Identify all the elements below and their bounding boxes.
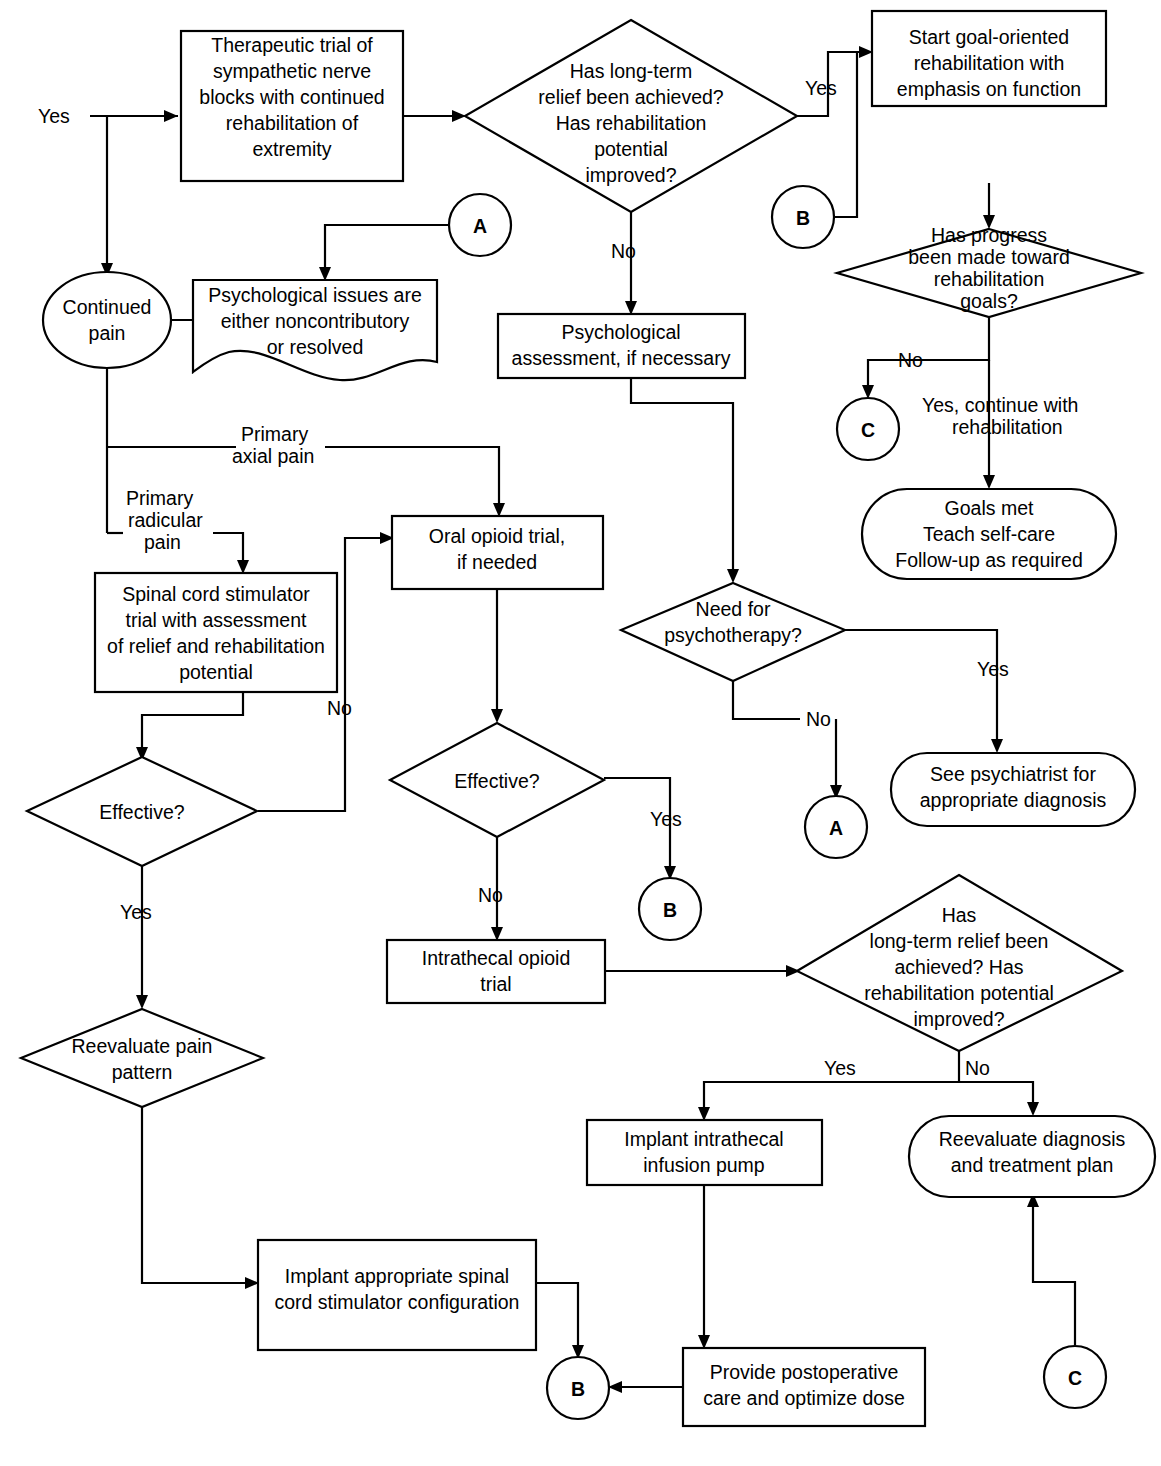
- node-longterm-relief-2[interactable]: Has long-term relief been achieved? Has …: [797, 875, 1122, 1051]
- connector-c2[interactable]: C: [1044, 1346, 1106, 1408]
- node-reevaluate-dx[interactable]: Reevaluate diagnosis and treatment plan: [909, 1116, 1155, 1197]
- connector-b3[interactable]: B: [547, 1357, 609, 1419]
- connector-c2-label: C: [1068, 1367, 1082, 1389]
- reevaluate-dx-line-1: Reevaluate diagnosis: [939, 1128, 1126, 1150]
- implant-scs-line-1: Implant appropriate spinal: [285, 1265, 509, 1287]
- arrowhead-see-psychiatrist: [991, 739, 1003, 753]
- node-longterm-relief-1[interactable]: Has long-term relief been achieved? Has …: [465, 20, 797, 212]
- label-primary-axial-2: axial pain: [232, 445, 314, 467]
- connector-b2-label: B: [663, 899, 677, 921]
- connector-a2[interactable]: A: [805, 796, 867, 858]
- edge-progress-no: [868, 317, 989, 395]
- arrowhead-reevaluate-pain: [136, 995, 148, 1009]
- longterm-relief-2-line-2: long-term relief been: [870, 930, 1049, 952]
- label-no-scs-effective: No: [327, 697, 352, 719]
- node-start-goal-rehab[interactable]: Start goal-oriented rehabilitation with …: [872, 11, 1106, 106]
- edge-b1-to-start-goal-rehab: [833, 52, 869, 217]
- continued-pain-line-2: pain: [89, 322, 126, 344]
- continued-pain-line-1: Continued: [63, 296, 152, 318]
- node-has-progress[interactable]: Has progress been made toward rehabilita…: [837, 224, 1141, 317]
- node-oral-opioid[interactable]: Oral opioid trial, if needed: [392, 516, 603, 589]
- start-goal-rehab-line-2: rehabilitation with: [914, 52, 1065, 74]
- edge-radicular-right: [213, 533, 243, 570]
- scs-trial-line-4: potential: [179, 661, 253, 683]
- scs-trial-line-3: of relief and rehabilitation: [107, 635, 325, 657]
- psych-assessment-line-2: assessment, if necessary: [512, 347, 731, 369]
- edge-psychotherapy-no-h: [733, 681, 800, 719]
- goals-met-line-1: Goals met: [945, 497, 1034, 519]
- connector-a2-label: A: [829, 817, 843, 839]
- edge-a1-to-psych-issues: [325, 225, 449, 277]
- label-no-progress: No: [898, 349, 923, 371]
- implant-scs-line-2: cord stimulator configuration: [275, 1291, 520, 1313]
- arrowhead-psych-assessment: [625, 301, 637, 315]
- need-psychotherapy-line-1: Need for: [696, 598, 771, 620]
- goals-met-line-2: Teach self-care: [923, 523, 1055, 545]
- arrowhead-b3-left: [608, 1381, 622, 1393]
- longterm-relief-2-line-3: achieved? Has: [895, 956, 1024, 978]
- postop-care-line-1: Provide postoperative: [710, 1361, 899, 1383]
- node-psych-issues[interactable]: Psychological issues are either noncontr…: [193, 280, 437, 380]
- node-implant-pump[interactable]: Implant intrathecal infusion pump: [587, 1120, 822, 1185]
- flowchart-page: Yes Yes No No Yes, continue with rehabil…: [0, 0, 1161, 1466]
- arrowhead-c1: [862, 385, 874, 399]
- connector-c1[interactable]: C: [837, 398, 899, 460]
- label-yes-psychotherapy: Yes: [977, 658, 1009, 680]
- node-reevaluate-pain-pattern[interactable]: Reevaluate pain pattern: [21, 1009, 263, 1107]
- has-progress-line-2: been made toward: [908, 246, 1070, 268]
- node-see-psychiatrist[interactable]: See psychiatrist for appropriate diagnos…: [891, 753, 1135, 826]
- intrathecal-trial-line-2: trial: [480, 973, 511, 995]
- node-need-psychotherapy[interactable]: Need for psychotherapy?: [621, 583, 845, 681]
- see-psychiatrist-line-2: appropriate diagnosis: [920, 789, 1107, 811]
- label-no-relief1: No: [611, 240, 636, 262]
- connector-b2[interactable]: B: [639, 878, 701, 940]
- node-goals-met[interactable]: Goals met Teach self-care Follow-up as r…: [862, 489, 1116, 579]
- label-no-opioid-effective: No: [478, 884, 503, 906]
- longterm-relief-1-line-4: potential: [594, 138, 668, 160]
- implant-pump-line-2: infusion pump: [643, 1154, 765, 1176]
- continued-pain-circle[interactable]: [43, 272, 171, 368]
- connector-a1-label: A: [473, 215, 487, 237]
- label-primary-radicular-3: pain: [144, 531, 181, 553]
- therapeutic-trial-line-2: sympathetic nerve: [213, 60, 371, 82]
- scs-trial-line-1: Spinal cord stimulator: [122, 583, 310, 605]
- connector-b1[interactable]: B: [772, 186, 834, 248]
- arrowhead-reevaluate-dx: [1027, 1102, 1039, 1116]
- arrowhead-therapeutic-trial: [164, 110, 178, 122]
- node-implant-scs[interactable]: Implant appropriate spinal cord stimulat…: [258, 1240, 536, 1350]
- node-therapeutic-trial[interactable]: Therapeutic trial of sympathetic nerve b…: [181, 31, 403, 181]
- label-no-psychotherapy: No: [806, 708, 831, 730]
- implant-pump-line-1: Implant intrathecal: [624, 1128, 783, 1150]
- node-continued-pain[interactable]: Continued pain: [43, 272, 171, 368]
- connector-c1-label: C: [861, 419, 875, 441]
- node-effective-opioid[interactable]: Effective?: [390, 723, 604, 837]
- reevaluate-dx-line-2: and treatment plan: [951, 1154, 1114, 1176]
- arrowhead-effective-opioid: [491, 709, 503, 723]
- arrowhead-goals-met: [983, 475, 995, 489]
- goals-met-line-3: Follow-up as required: [895, 549, 1083, 571]
- intrathecal-trial-line-1: Intrathecal opioid: [422, 947, 571, 969]
- therapeutic-trial-line-3: blocks with continued: [199, 86, 384, 108]
- reevaluate-pain-diamond[interactable]: [21, 1009, 263, 1107]
- edge-relief2-yes: [704, 1082, 959, 1117]
- see-psychiatrist-line-1: See psychiatrist for: [930, 763, 1096, 785]
- has-progress-line-3: rehabilitation: [934, 268, 1045, 290]
- therapeutic-trial-line-4: rehabilitation of: [226, 112, 359, 134]
- node-intrathecal-trial[interactable]: Intrathecal opioid trial: [387, 940, 605, 1003]
- edge-scs-trial-to-effective: [142, 692, 243, 757]
- node-psych-assessment[interactable]: Psychological assessment, if necessary: [498, 314, 745, 378]
- label-yes-opioid-effective: Yes: [650, 808, 682, 830]
- longterm-relief-1-line-5: improved?: [585, 164, 676, 186]
- longterm-relief-1-line-3: Has rehabilitation: [556, 112, 707, 134]
- node-effective-scs[interactable]: Effective?: [27, 757, 257, 866]
- edge-psych-assessment-to-psychotherapy: [631, 378, 733, 579]
- edge-c2-to-reevaluate-dx: [1033, 1197, 1075, 1345]
- reevaluate-pain-line-2: pattern: [112, 1061, 173, 1083]
- node-postop-care[interactable]: Provide postoperative care and optimize …: [683, 1348, 925, 1426]
- therapeutic-trial-line-5: extremity: [252, 138, 331, 160]
- connector-a1[interactable]: A: [449, 194, 511, 256]
- start-goal-rehab-line-3: emphasis on function: [897, 78, 1081, 100]
- postop-care-line-2: care and optimize dose: [703, 1387, 905, 1409]
- node-spinal-cord-stim-trial[interactable]: Spinal cord stimulator trial with assess…: [95, 573, 337, 692]
- label-primary-radicular-2: radicular: [128, 509, 203, 531]
